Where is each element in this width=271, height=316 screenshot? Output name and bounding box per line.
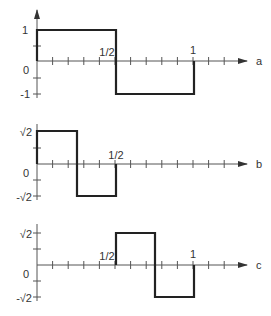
x-mark-one: 1: [190, 44, 196, 56]
wavelet-diagram: 1 -1 0 1/2 1 a √2 -√2 0 1/2 b √2 -√2 0 1…: [0, 0, 271, 316]
axis-label-c: c: [256, 259, 262, 271]
panel-a: 1 -1 0 1/2 1 a: [20, 10, 263, 100]
y-bottom-label: -√2: [16, 292, 32, 304]
panel-c: √2 -√2 0 1/2 1 c: [16, 224, 262, 304]
y-top-label: √2: [20, 228, 32, 240]
x-mark-half: 1/2: [99, 46, 114, 58]
y-bottom-label: -√2: [16, 191, 32, 203]
y-bottom-label: -1: [20, 88, 30, 100]
axis-label-a: a: [256, 55, 263, 67]
waveform-a: [37, 30, 194, 94]
x-mark-half: 1/2: [99, 250, 114, 262]
panel-b: √2 -√2 0 1/2 b: [16, 124, 262, 203]
axis-label-b: b: [256, 158, 262, 170]
origin-label: 0: [23, 167, 29, 179]
origin-label: 0: [23, 64, 29, 76]
origin-label: 0: [23, 268, 29, 280]
y-top-label: 1: [22, 24, 28, 36]
y-top-label: √2: [20, 126, 32, 138]
x-mark-half: 1/2: [108, 149, 123, 161]
x-mark-one: 1: [190, 248, 196, 260]
